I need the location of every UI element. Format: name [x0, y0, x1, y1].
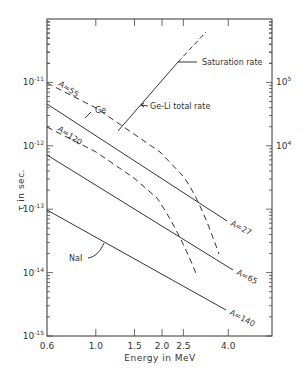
nai-label: NaI	[69, 254, 82, 263]
x-tick-label: 1.0	[89, 341, 104, 351]
ge-label: Ge	[95, 106, 106, 115]
a55-label: A=55	[57, 79, 81, 99]
ge-pointer	[85, 112, 91, 118]
right-axis-tick-label: 105	[276, 75, 291, 87]
series-a27-line	[47, 104, 227, 221]
y-tick-label: 10-11	[23, 75, 44, 87]
x-tick-label: 0.6	[40, 341, 55, 351]
lifetime-energy-chart: 10-1110-1210-1310-1410-15 105104 0.61.01…	[0, 0, 305, 379]
x-tick-label: 1.5	[127, 341, 141, 351]
y-axis-title: τ in sec.	[16, 169, 26, 211]
geli-total-rate-label: Ge-Li total rate	[150, 102, 210, 111]
y-tick-label: 10-12	[23, 139, 44, 151]
y-tick-label: 10-14	[23, 266, 44, 278]
right-axis-tick-labels: 105104	[276, 75, 291, 150]
series-a65-line	[47, 155, 233, 270]
right-axis-tick-label: 104	[276, 139, 291, 151]
x-axis-title: Energy in MeV	[124, 353, 196, 363]
x-tick-label: 2.5	[176, 341, 190, 351]
x-axis-tick-labels: 0.61.01.52.02.54.0	[40, 341, 236, 351]
y-tick-label: 10-15	[23, 329, 44, 341]
a140-label: A=140	[228, 308, 256, 329]
saturation-rate-label: Saturation rate	[202, 58, 263, 67]
a27-label: A=27	[229, 219, 253, 237]
a65-label: A=65	[235, 268, 259, 286]
a120-label: A=120	[56, 124, 84, 147]
series-geli-total-rate-solid	[118, 62, 178, 131]
x-tick-label: 4.0	[221, 341, 236, 351]
x-tick-label: 2.0	[155, 341, 170, 351]
nai-pointer	[88, 243, 104, 258]
